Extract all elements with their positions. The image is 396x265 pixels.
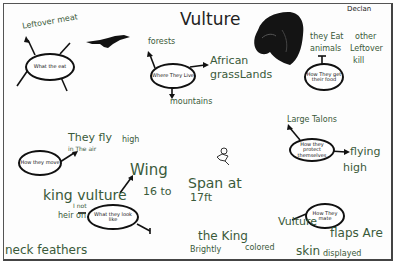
text-large-talons: Large Talons <box>287 116 337 124</box>
text-heir-on: heir on <box>58 212 86 220</box>
bubble-what-they-look-like: What they look like <box>87 204 139 230</box>
text-flying: flying <box>350 146 380 157</box>
text-brightly: Brightly <box>190 246 221 254</box>
text-high: high <box>122 136 139 144</box>
text-mountains: mountains <box>170 98 212 106</box>
text-king-vulture: king vulture <box>43 188 127 202</box>
text-in-the-air: in The air <box>68 146 96 152</box>
text-vulture-small: Vulture <box>278 216 317 227</box>
text-not: I not <box>73 203 87 209</box>
text-high-2: high <box>343 162 367 173</box>
text-they-eat: they Eat <box>310 33 344 41</box>
bubble-what-they-eat: What the eat <box>25 53 75 81</box>
text-animals: animals <box>310 45 341 53</box>
text-grasslands: grassLands <box>210 69 272 80</box>
text-17ft: 17ft <box>190 192 212 203</box>
text-span-at: Span at <box>188 176 242 190</box>
text-they-fly: They fly <box>68 132 112 143</box>
text-the-king: the King <box>198 230 248 242</box>
text-16-to: 16 to <box>143 186 172 197</box>
text-flaps-are: flaps Are <box>330 227 383 239</box>
text-leftover: Leftover <box>350 45 383 53</box>
text-kill: kill <box>353 57 364 65</box>
bubble-where-they-live: Where They Live <box>150 63 196 89</box>
text-other: other <box>355 33 376 41</box>
author-name: Declan <box>347 6 371 13</box>
text-neck-feathers: neck feathers <box>5 244 87 256</box>
text-forests: forests <box>148 38 175 46</box>
poster-title: Vulture <box>180 11 241 28</box>
text-skin: skin <box>296 245 320 257</box>
bubble-how-they-get-food: How They get their food <box>304 63 344 91</box>
text-displayed: displayed <box>323 250 361 258</box>
text-colored: colored <box>245 244 275 252</box>
text-wing: Wing <box>130 163 168 178</box>
bubble-how-they-move: How they move <box>18 150 62 176</box>
bubble-how-they-protect: How they protect themselves <box>289 138 335 162</box>
text-african: African <box>210 55 248 66</box>
